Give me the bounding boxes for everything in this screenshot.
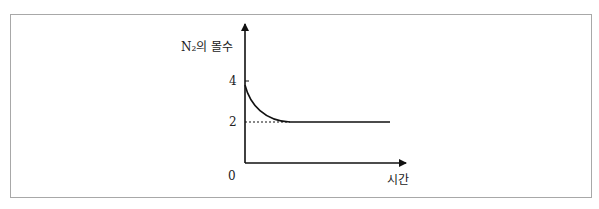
x-axis-label: 시간 [387, 173, 409, 187]
y-tick-label-4: 4 [229, 74, 237, 88]
y-tick-label-2: 2 [229, 115, 237, 129]
origin-label: 0 [228, 169, 236, 183]
mole-curve [245, 85, 390, 122]
y-axis-label: N₂의 몰수 [181, 40, 233, 54]
chart-svg: N₂의 몰수 4 2 0 시간 [0, 0, 599, 209]
